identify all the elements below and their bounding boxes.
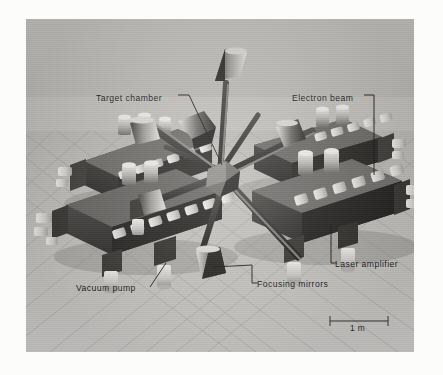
callout-target-chamber: Target chamber (96, 93, 162, 103)
facility-illustration (26, 19, 414, 352)
callout-vacuum-pump: Vacuum pump (76, 283, 136, 293)
callout-electron-beam: Electron beam (292, 93, 353, 103)
callout-laser-amplifier: Laser amplifier (335, 259, 398, 269)
scale-bar-label: 1 m (350, 323, 365, 333)
figure-photograph: Target chamber Electron beam Laser ampli… (26, 19, 414, 352)
page-background: Target chamber Electron beam Laser ampli… (0, 0, 443, 375)
callout-focusing-mirrors: Focusing mirrors (257, 279, 328, 289)
